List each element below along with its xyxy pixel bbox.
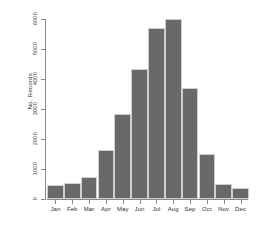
x-axis-label-jun: Jun bbox=[131, 206, 148, 212]
x-axis-label-jan: Jan bbox=[47, 206, 64, 212]
bar-jul bbox=[148, 28, 165, 199]
y-axis-tick-label: 3000 bbox=[0, 109, 39, 110]
x-axis-tick bbox=[173, 200, 174, 204]
bar-mar bbox=[81, 177, 98, 199]
bar-aug bbox=[165, 19, 182, 199]
x-axis-label-sep: Sep bbox=[182, 206, 199, 212]
bar-feb bbox=[64, 183, 81, 200]
y-axis-tick-value: 0 bbox=[33, 197, 39, 200]
x-axis-tick bbox=[55, 200, 56, 204]
x-axis-tick bbox=[190, 200, 191, 204]
x-axis-tick bbox=[156, 200, 157, 204]
x-axis-label-jul: Jul bbox=[148, 206, 165, 212]
y-axis-title: No. Records bbox=[24, 0, 34, 183]
bar-jan bbox=[47, 185, 64, 199]
x-axis-label-apr: Apr bbox=[98, 206, 115, 212]
y-axis-tick-label: 5000 bbox=[0, 49, 39, 50]
y-axis-tick bbox=[41, 79, 45, 80]
bar-apr bbox=[98, 150, 115, 199]
y-axis-tick bbox=[41, 49, 45, 50]
bar-jun bbox=[131, 69, 148, 200]
y-axis-tick-label: 2000 bbox=[0, 139, 39, 140]
y-axis-tick bbox=[41, 199, 45, 200]
plot-area bbox=[47, 16, 249, 199]
x-axis-tick bbox=[207, 200, 208, 204]
bar-sep bbox=[182, 88, 199, 199]
y-axis-tick bbox=[41, 139, 45, 140]
y-axis-tick bbox=[41, 109, 45, 110]
y-axis-tick-value: 5000 bbox=[33, 42, 39, 55]
y-axis-tick-value: 2000 bbox=[33, 132, 39, 145]
y-axis-tick-value: 6000 bbox=[33, 12, 39, 25]
y-axis-tick-label: 0 bbox=[0, 199, 39, 200]
y-axis-tick-value: 1000 bbox=[33, 162, 39, 175]
x-axis-label-oct: Oct bbox=[199, 206, 216, 212]
y-axis-tick-label: 1000 bbox=[0, 169, 39, 170]
x-axis-label-nov: Nov bbox=[215, 206, 232, 212]
x-axis-label-aug: Aug bbox=[165, 206, 182, 212]
x-axis-line bbox=[47, 199, 248, 200]
y-axis-tick-value: 3000 bbox=[33, 102, 39, 115]
y-axis-tick bbox=[41, 19, 45, 20]
x-axis-tick bbox=[224, 200, 225, 204]
x-axis-label-mar: Mar bbox=[81, 206, 98, 212]
x-axis-tick bbox=[106, 200, 107, 204]
y-axis-line bbox=[45, 19, 46, 200]
y-axis-tick-value: 4000 bbox=[33, 72, 39, 85]
bar-nov bbox=[215, 184, 232, 199]
bar-dec bbox=[232, 188, 249, 199]
bar-may bbox=[114, 114, 131, 200]
x-axis-tick bbox=[140, 200, 141, 204]
bar-oct bbox=[199, 154, 216, 199]
x-axis-tick bbox=[72, 200, 73, 204]
y-axis-tick-label: 6000 bbox=[0, 19, 39, 20]
x-axis-tick bbox=[241, 200, 242, 204]
bar-chart: No. Records 0100020003000400050006000 Ja… bbox=[0, 0, 260, 239]
y-axis-tick-label: 4000 bbox=[0, 79, 39, 80]
x-axis-label-feb: Feb bbox=[64, 206, 81, 212]
x-axis-label-may: May bbox=[114, 206, 131, 212]
x-axis-label-dec: Dec bbox=[232, 206, 249, 212]
x-axis-tick bbox=[89, 200, 90, 204]
y-axis-tick bbox=[41, 169, 45, 170]
x-axis-tick bbox=[123, 200, 124, 204]
